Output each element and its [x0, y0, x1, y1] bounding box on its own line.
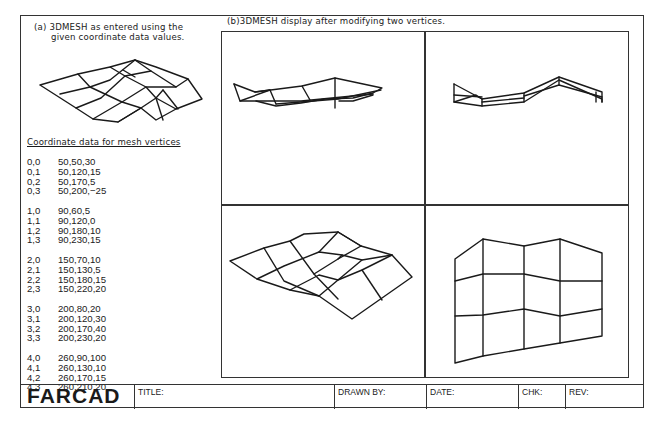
vertex-group-0: 0,050,50,30 0,150,120,15 0,250,170,5 0,3…: [27, 157, 106, 196]
vertex-coords: 50,200,−25: [58, 186, 106, 196]
coordinate-list: 0,050,50,30 0,150,120,15 0,250,170,5 0,3…: [27, 157, 106, 402]
vertex-coords: 200,230,20: [58, 333, 106, 343]
mesh-a-drawing: [38, 52, 208, 132]
chk-label: CHK:: [522, 387, 542, 397]
vertex-coords: 90,230,15: [58, 235, 101, 245]
vertex-row: 1,390,230,15: [27, 235, 106, 245]
chk-field[interactable]: CHK:: [518, 385, 565, 409]
vertex-row: 0,350,200,−25: [27, 186, 106, 196]
rev-field[interactable]: REV:: [565, 385, 644, 409]
vertex-index: 2,3: [27, 284, 58, 294]
panel-a-caption-line2: given coordinate data values.: [34, 32, 214, 42]
vertex-group-3: 3,0200,80,20 3,1200,120,30 3,2200,170,40…: [27, 304, 106, 343]
vertex-index: 3,3: [27, 333, 58, 343]
farcad-logo: FARCAD: [27, 385, 121, 407]
panel-b-caption: (b)3DMESH display after modifying two ve…: [227, 16, 445, 26]
vertex-index: 1,3: [27, 235, 58, 245]
panel-a-caption-line1: (a) 3DMESH as entered using the: [34, 22, 183, 32]
vertex-group-2: 2,0150,70,10 2,1150,130,5 2,2150,180,15 …: [27, 255, 106, 294]
drawn-by-field[interactable]: DRAWN BY:: [334, 385, 426, 409]
title-label: TITLE:: [138, 387, 164, 397]
viewport-top-right-front-view[interactable]: [424, 31, 629, 204]
vertex-group-1: 1,090,60,5 1,190,120,0 1,290,180,10 1,39…: [27, 206, 106, 245]
viewport-top-left-side-view[interactable]: [221, 31, 424, 204]
title-field[interactable]: TITLE:: [134, 385, 334, 409]
panel-a-caption: (a) 3DMESH as entered using the given co…: [34, 22, 214, 42]
viewport-bottom-right-plan-view[interactable]: [424, 204, 629, 378]
date-field[interactable]: DATE:: [426, 385, 518, 409]
vertex-row: 2,3150,220,20: [27, 284, 106, 294]
viewport-bottom-left-isometric-view[interactable]: [221, 204, 424, 378]
drawn-by-label: DRAWN BY:: [338, 387, 385, 397]
vertex-coords: 150,220,20: [58, 284, 106, 294]
coordinate-data-heading: Coordinate data for mesh vertices: [27, 137, 181, 147]
vertex-index: 0,3: [27, 186, 58, 196]
date-label: DATE:: [430, 387, 454, 397]
rev-label: REV:: [569, 387, 589, 397]
vertex-row: 3,3200,230,20: [27, 333, 106, 343]
